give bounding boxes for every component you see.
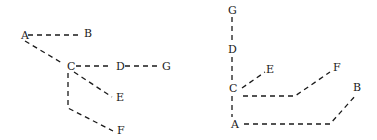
- node-a: A: [20, 29, 30, 42]
- node-e: E: [116, 91, 124, 104]
- left-tree: ABCDGEF: [20, 27, 171, 137]
- edge-a-c: [25, 41, 62, 63]
- edge-a-b: [244, 95, 356, 124]
- node-f: F: [333, 61, 341, 74]
- node-e: E: [266, 63, 274, 76]
- edge-c-f: [68, 73, 113, 131]
- right-tree: GDCAEFB: [228, 4, 361, 131]
- tree-diagrams: ABCDGEF GDCAEFB: [0, 0, 377, 140]
- node-g: G: [162, 60, 171, 73]
- node-d: D: [228, 43, 237, 56]
- node-a: A: [230, 118, 240, 131]
- node-b: B: [84, 27, 92, 40]
- node-c: C: [229, 82, 237, 95]
- node-c: C: [67, 60, 75, 73]
- edge-c-f: [243, 72, 330, 96]
- node-b: B: [353, 81, 361, 94]
- node-d: D: [116, 60, 125, 73]
- node-g: G: [228, 4, 237, 17]
- edge-c-e: [74, 72, 112, 97]
- edge-c-e: [242, 72, 265, 88]
- node-f: F: [117, 124, 125, 137]
